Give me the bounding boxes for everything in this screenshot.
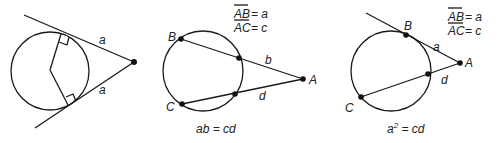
tangent-line [366,13,460,63]
definitions-box: AB = a AC = c [447,8,482,38]
point-A [457,60,463,66]
label-C: C [345,101,354,115]
label-A: A [308,73,317,87]
point-C [179,101,185,107]
lower-intersection-point [232,91,238,97]
upper-right-angle-mark [59,37,69,45]
figure-secant-secant: B C A b d AB = a AC = c ab = cd [163,5,317,136]
def-AB-eq: = a [251,7,268,21]
circle-3 [351,31,431,111]
def-AB-seg: AB [447,10,464,24]
lower-tangent-line [35,62,134,128]
lower-secant-line [182,79,303,104]
upper-tangent-line [24,15,134,62]
lower-radius [50,70,68,105]
external-point [131,59,137,65]
caption-secant-secant: ab = cd [196,122,236,136]
figure-tangent-secant: B C A a d AB = a AC = c a2 = cd [345,8,482,136]
upper-secant-line [181,39,303,79]
label-C: C [166,100,175,114]
upper-tangent-label: a [99,33,106,47]
figure-tangent-tangent: a a [11,15,137,128]
caption-tangent-secant: a2 = cd [387,121,425,136]
label-b: b [265,53,272,67]
point-B [178,36,184,42]
label-A: A [464,56,473,70]
label-B: B [168,30,176,44]
def-AB-eq: = a [465,10,482,24]
label-d: d [441,73,448,87]
definitions-box: AB = a AC = c [233,5,268,35]
def-AB-seg: AB [233,7,250,21]
upper-radius [50,34,61,70]
point-B [403,32,409,38]
label-a: a [433,40,440,54]
label-d: d [259,89,266,103]
circle-theorems-diagram: a a B C A b d AB = a AC = c ab = cd [0,0,498,143]
point-A [300,76,306,82]
def-AC-eq: = c [465,24,481,38]
point-C [358,94,364,100]
lower-right-angle-mark [66,94,76,101]
def-AC-seg: AC [233,21,251,35]
def-AC-eq: = c [251,21,267,35]
def-AC-seg: AC [447,24,465,38]
upper-intersection-point [236,55,242,61]
caption-rest: = cd [398,122,425,136]
secant-intersection-point [425,71,431,77]
label-B: B [404,19,412,33]
lower-tangent-label: a [99,83,106,97]
